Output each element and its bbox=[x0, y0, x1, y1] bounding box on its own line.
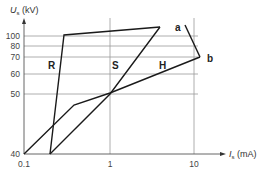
curve-a-b bbox=[185, 25, 200, 57]
label-s: S bbox=[112, 60, 119, 71]
x-axis-label: Is (mA) bbox=[229, 149, 257, 160]
y-axis-label: Us (kV) bbox=[10, 5, 39, 16]
y-tick-labels: 100 80 70 60 50 40 bbox=[6, 31, 20, 159]
chart: 100 80 70 60 50 40 0.1 1 10 Us (kV) Is (… bbox=[0, 0, 263, 178]
svg-text:10: 10 bbox=[189, 159, 199, 169]
x-tick-labels: 0.1 1 10 bbox=[18, 159, 199, 169]
svg-text:100: 100 bbox=[6, 31, 20, 41]
label-b: b bbox=[207, 53, 213, 64]
svg-text:60: 60 bbox=[11, 69, 21, 79]
svg-text:80: 80 bbox=[11, 41, 21, 51]
svg-text:1: 1 bbox=[108, 159, 113, 169]
label-a: a bbox=[175, 22, 181, 33]
label-r: R bbox=[48, 60, 56, 71]
svg-text:0.1: 0.1 bbox=[18, 159, 30, 169]
svg-text:50: 50 bbox=[11, 89, 21, 99]
label-h: H bbox=[159, 60, 166, 71]
curve-h bbox=[24, 57, 200, 154]
svg-text:40: 40 bbox=[11, 149, 21, 159]
svg-text:70: 70 bbox=[11, 52, 21, 62]
